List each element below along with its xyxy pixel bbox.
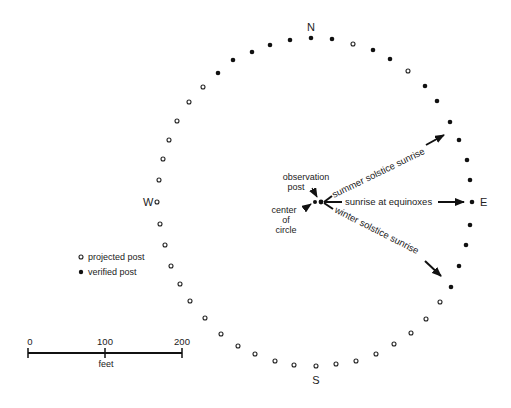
verified-post-marker xyxy=(470,200,475,205)
scale-tick-0: 0 xyxy=(27,336,32,347)
projected-post-marker xyxy=(334,362,338,366)
center-of-circle-marker xyxy=(313,200,317,204)
winter-solstice-arrow xyxy=(425,261,441,276)
projected-post-marker xyxy=(169,264,173,268)
verified-post-marker xyxy=(468,178,473,183)
verified-post-marker xyxy=(288,38,293,43)
projected-post-marker xyxy=(253,352,257,356)
scale-tick-100: 100 xyxy=(97,336,113,347)
projected-post-legend-icon xyxy=(79,255,83,259)
winter-solstice-label: winter solstice sunrise xyxy=(332,204,421,256)
projected-post-marker xyxy=(438,300,442,304)
verified-post-legend-icon xyxy=(79,270,83,274)
verified-post-marker xyxy=(371,48,376,53)
verified-post-marker xyxy=(448,120,453,125)
projected-post-marker xyxy=(201,85,205,89)
projected-post-marker xyxy=(409,331,413,335)
verified-post-marker xyxy=(330,37,335,42)
verified-post-marker xyxy=(268,43,273,48)
projected-post-marker xyxy=(155,200,159,204)
projected-post-marker xyxy=(392,342,396,346)
verified-post-marker xyxy=(457,138,462,143)
winter-solstice-ray-stub xyxy=(324,203,333,209)
projected-post-marker xyxy=(163,243,167,247)
legend-projected-label: projected post xyxy=(88,252,145,262)
compass-east: E xyxy=(480,196,487,208)
scale-tick-200: 200 xyxy=(174,336,190,347)
projected-post-marker xyxy=(158,222,162,226)
verified-post-marker xyxy=(231,58,236,63)
projected-post-marker xyxy=(374,352,378,356)
center-label-1: center xyxy=(271,205,296,215)
compass-west: W xyxy=(143,196,154,208)
projected-post-marker xyxy=(292,363,296,367)
projected-post-marker xyxy=(406,69,410,73)
legend-verified-label: verified post xyxy=(88,267,137,277)
compass-south: S xyxy=(312,374,319,386)
projected-post-marker xyxy=(167,138,171,142)
projected-post-marker xyxy=(178,282,182,286)
verified-post-marker xyxy=(423,84,428,89)
projected-post-marker xyxy=(188,299,192,303)
verified-post-marker xyxy=(250,50,255,55)
projected-post-marker xyxy=(354,359,358,363)
projected-post-marker xyxy=(314,364,318,368)
verified-post-marker xyxy=(449,285,454,290)
projected-post-marker xyxy=(187,100,191,104)
summer-solstice-label: summer solstice sunrise xyxy=(330,145,426,200)
verified-post-marker xyxy=(457,264,462,269)
verified-post-marker xyxy=(309,36,314,41)
projected-post-marker xyxy=(351,42,355,46)
observation-post-label-1: observation xyxy=(283,172,330,182)
verified-post-marker xyxy=(216,71,221,76)
woodhenge-diagram: N S E W observation post center of circl… xyxy=(0,0,511,408)
legend: projected post verified post xyxy=(79,252,145,277)
projected-post-marker xyxy=(219,332,223,336)
projected-post-marker xyxy=(236,344,240,348)
summer-solstice-arrow xyxy=(426,135,444,145)
projected-post-marker xyxy=(175,119,179,123)
verified-post-marker xyxy=(435,99,440,104)
observation-post-marker xyxy=(319,200,324,205)
compass-north: N xyxy=(307,21,315,33)
projected-post-marker xyxy=(161,157,165,161)
observation-post-label-2: post xyxy=(287,182,305,192)
projected-post-marker xyxy=(203,316,207,320)
projected-post-marker xyxy=(157,178,161,182)
equinox-label: sunrise at equinoxes xyxy=(345,196,432,207)
center-label-3: circle xyxy=(275,225,296,235)
center-pointer-arrow xyxy=(304,204,311,209)
verified-post-marker xyxy=(468,223,473,228)
observation-pointer-arrow xyxy=(312,188,317,197)
verified-post-marker xyxy=(464,243,469,248)
scale-unit-label: feet xyxy=(98,359,114,369)
projected-post-marker xyxy=(424,317,428,321)
scale-bar: 0 100 200 feet xyxy=(27,336,190,369)
verified-post-marker xyxy=(388,57,393,62)
projected-post-marker xyxy=(273,359,277,363)
center-label-2: of xyxy=(282,215,290,225)
verified-post-marker xyxy=(465,158,470,163)
